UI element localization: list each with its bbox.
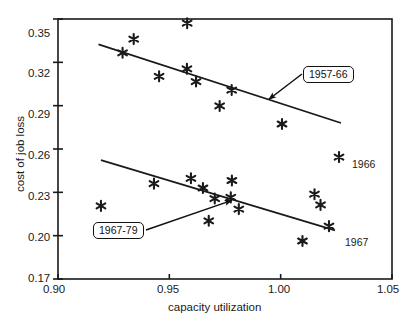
axis-ticks xyxy=(53,19,392,279)
data-points xyxy=(97,18,344,246)
ytick-label-5: 0.32 xyxy=(18,67,50,79)
ytick-label-6: 0.35 xyxy=(18,27,50,39)
xtick-label-1: 0.95 xyxy=(157,283,179,295)
figure: 0.90 0.95 1.00 1.05 0.17 0.20 0.23 0.26 … xyxy=(0,0,420,326)
xtick-label-0: 0.90 xyxy=(43,283,65,295)
y-axis-title: cost of job loss xyxy=(14,116,26,192)
callout-arrows xyxy=(146,74,302,230)
plot-frame xyxy=(58,19,392,279)
callout-1967-79[interactable]: 1967-79 xyxy=(93,222,144,239)
ytick-label-1: 0.20 xyxy=(18,231,50,243)
xtick-label-2: 1.00 xyxy=(268,283,290,295)
point-label-1967: 1967 xyxy=(345,236,368,248)
callout-1957-66[interactable]: 1957-66 xyxy=(303,66,354,83)
point-label-1966: 1966 xyxy=(352,158,375,170)
xtick-label-3: 1.05 xyxy=(377,283,399,295)
x-axis-title: capacity utilization xyxy=(168,301,261,313)
ytick-label-0: 0.17 xyxy=(18,272,50,284)
